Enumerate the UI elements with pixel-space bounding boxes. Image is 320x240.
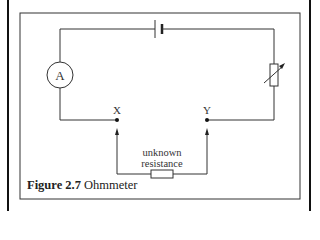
- ammeter-label: A: [55, 68, 65, 83]
- terminal-x: [115, 118, 119, 122]
- figure-caption: Figure 2.7 Ohmmeter: [27, 178, 138, 193]
- terminal-y: [205, 118, 209, 122]
- lead-y-arrowhead: [205, 128, 209, 135]
- terminal-x-label: X: [113, 104, 121, 116]
- lead-x-arrowhead: [115, 128, 119, 135]
- figure-title: Ohmmeter: [84, 178, 137, 192]
- figure-number: Figure 2.7: [27, 178, 81, 192]
- unknown-resistance-label-line1: unknown: [142, 147, 182, 158]
- unknown-resistance-label-line2: resistance: [141, 158, 183, 169]
- variable-resistor-body: [270, 64, 278, 86]
- terminal-y-label: Y: [203, 104, 211, 116]
- variable-resistor-arrowhead: [279, 63, 285, 69]
- unknown-resistor-body: [151, 170, 173, 178]
